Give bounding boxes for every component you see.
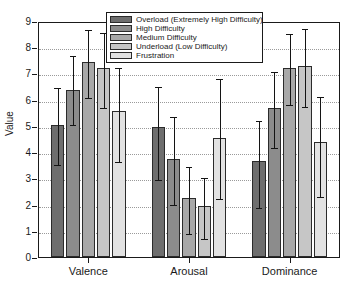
y-tick-mark bbox=[32, 127, 37, 128]
error-bar-cap-upper bbox=[201, 178, 208, 179]
error-bar-cap-lower bbox=[54, 165, 61, 166]
error-bar-cap-lower bbox=[186, 234, 193, 235]
error-bar-line bbox=[259, 121, 260, 208]
error-bar-line bbox=[189, 167, 190, 234]
y-tick-label: 4 bbox=[25, 148, 31, 158]
legend-item[interactable]: Overload (Extremely High Difficulty) bbox=[110, 15, 259, 24]
error-bar-cap-upper bbox=[216, 79, 223, 80]
x-tick-mark bbox=[88, 258, 89, 263]
error-bar-cap-upper bbox=[186, 167, 193, 168]
legend-swatch-icon bbox=[110, 52, 132, 59]
error-bar-cap-lower bbox=[70, 125, 77, 126]
error-bar-cap-lower bbox=[271, 148, 278, 149]
legend-label: Underload (Low Difficulty) bbox=[136, 43, 227, 51]
error-bar-line bbox=[158, 87, 159, 180]
error-bar-cap-upper bbox=[302, 29, 309, 30]
legend-item[interactable]: Medium Difficulty bbox=[110, 33, 259, 42]
y-tick-mark bbox=[32, 258, 37, 259]
error-bar-cap-upper bbox=[85, 30, 92, 31]
legend-item[interactable]: Underload (Low Difficulty) bbox=[110, 42, 259, 51]
error-bar-cap-upper bbox=[317, 97, 324, 98]
error-bar-cap-lower bbox=[216, 199, 223, 200]
x-tick-mark bbox=[290, 258, 291, 263]
y-tick-mark bbox=[32, 232, 37, 233]
x-group-label-dominance: Dominance bbox=[262, 265, 318, 277]
error-bar-cap-lower bbox=[317, 197, 324, 198]
error-bar-cap-upper bbox=[256, 121, 263, 122]
x-group-label-valence: Valence bbox=[69, 265, 108, 277]
error-bar-line bbox=[73, 56, 74, 125]
legend-label: Medium Difficulty bbox=[136, 34, 197, 42]
y-tick-mark bbox=[32, 74, 37, 75]
legend-swatch-icon bbox=[110, 34, 132, 41]
y-tick-label: 6 bbox=[25, 96, 31, 106]
legend-label: Overload (Extremely High Difficulty) bbox=[136, 16, 263, 24]
x-tick-mark bbox=[189, 258, 190, 263]
error-bar-cap-lower bbox=[100, 108, 107, 109]
error-bar-line bbox=[88, 30, 89, 97]
error-bar-line bbox=[104, 33, 105, 108]
y-tick-label: 0 bbox=[25, 253, 31, 263]
error-bar-cap-lower bbox=[115, 162, 122, 163]
error-bar-cap-lower bbox=[286, 105, 293, 106]
error-bar-line bbox=[320, 97, 321, 197]
y-tick-mark bbox=[32, 101, 37, 102]
error-bar-cap-lower bbox=[155, 180, 162, 181]
legend-label: Frustration bbox=[136, 52, 174, 60]
y-tick-label: 9 bbox=[25, 17, 31, 27]
y-axis: 0123456789 bbox=[0, 0, 38, 289]
error-bar-line bbox=[119, 68, 120, 162]
y-tick-label: 5 bbox=[25, 122, 31, 132]
legend-item[interactable]: High Difficulty bbox=[110, 24, 259, 33]
y-tick-label: 7 bbox=[25, 69, 31, 79]
y-tick-mark bbox=[32, 206, 37, 207]
error-bar-cap-lower bbox=[256, 208, 263, 209]
error-bar-line bbox=[204, 178, 205, 238]
y-tick-label: 3 bbox=[25, 174, 31, 184]
error-bar-cap-upper bbox=[54, 88, 61, 89]
error-bar-line bbox=[305, 29, 306, 108]
error-bar-line bbox=[274, 72, 275, 147]
error-bar-cap-lower bbox=[302, 107, 309, 108]
error-bar-line bbox=[174, 117, 175, 205]
y-tick-mark bbox=[32, 22, 37, 23]
error-bar-cap-upper bbox=[170, 117, 177, 118]
error-bar-cap-upper bbox=[70, 56, 77, 57]
chart-legend: Overload (Extremely High Difficulty)High… bbox=[106, 12, 263, 63]
legend-swatch-icon bbox=[110, 16, 132, 23]
y-tick-label: 8 bbox=[25, 43, 31, 53]
error-bar-cap-lower bbox=[85, 98, 92, 99]
error-bar-cap-lower bbox=[201, 239, 208, 240]
error-bar-line bbox=[58, 88, 59, 165]
legend-label: High Difficulty bbox=[136, 25, 185, 33]
legend-swatch-icon bbox=[110, 43, 132, 50]
bar-chart-figure: Value 0123456789 ValenceArousalDominance… bbox=[0, 0, 353, 289]
error-bar-line bbox=[290, 34, 291, 105]
error-bar-cap-lower bbox=[170, 205, 177, 206]
y-tick-label: 2 bbox=[25, 201, 31, 211]
x-group-label-arousal: Arousal bbox=[170, 265, 207, 277]
y-tick-mark bbox=[32, 179, 37, 180]
legend-swatch-icon bbox=[110, 25, 132, 32]
error-bar-line bbox=[220, 79, 221, 199]
legend-item[interactable]: Frustration bbox=[110, 51, 259, 60]
y-tick-label: 1 bbox=[25, 227, 31, 237]
error-bar-cap-upper bbox=[115, 68, 122, 69]
error-bar-cap-upper bbox=[271, 72, 278, 73]
error-bar-cap-upper bbox=[286, 34, 293, 35]
y-tick-mark bbox=[32, 48, 37, 49]
error-bar-cap-upper bbox=[155, 87, 162, 88]
y-tick-mark bbox=[32, 153, 37, 154]
